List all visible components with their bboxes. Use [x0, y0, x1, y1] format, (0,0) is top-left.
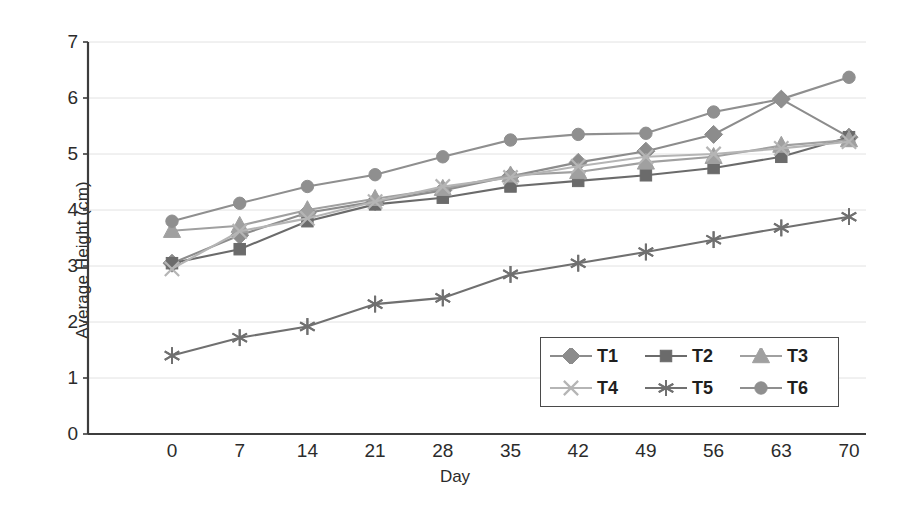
line-chart: Average Height (cm) 01234567 07142128354… [0, 0, 910, 520]
legend-label-t2: T2 [692, 347, 713, 365]
data-point-t2-49 [640, 170, 651, 181]
data-point-t6-49 [640, 127, 652, 139]
legend-label-t5: T5 [692, 379, 713, 397]
legend-item-t3[interactable]: T3 [739, 347, 834, 365]
data-point-t2-7 [234, 243, 245, 254]
legend-item-t2[interactable]: T2 [644, 347, 739, 365]
legend-item-t5[interactable]: T5 [644, 379, 739, 397]
legend-item-t6[interactable]: T6 [739, 379, 834, 397]
series-line-t6 [172, 77, 849, 221]
legend-marker-x-icon [549, 380, 593, 396]
series-t6 [166, 71, 855, 227]
legend-item-t1[interactable]: T1 [549, 347, 644, 365]
data-point-t1-56 [705, 125, 723, 143]
data-point-t6-70 [843, 71, 855, 83]
legend-label-t4: T4 [597, 379, 618, 397]
legend-marker-square-icon [644, 348, 688, 364]
legend-item-t4[interactable]: T4 [549, 379, 644, 397]
series-line-t4 [172, 142, 849, 269]
series-t4 [165, 135, 856, 276]
data-point-t6-21 [369, 169, 381, 181]
legend-marker-triangle-icon [739, 348, 783, 364]
legend-marker-diamond-icon [549, 348, 593, 364]
data-point-t6-35 [504, 134, 516, 146]
legend-marker-circle-icon [739, 380, 783, 396]
data-point-t6-63 [775, 93, 787, 105]
data-point-t6-0 [166, 215, 178, 227]
legend-label-t3: T3 [787, 347, 808, 365]
legend-label-t1: T1 [597, 347, 618, 365]
data-point-t6-42 [572, 128, 584, 140]
legend-marker [660, 350, 671, 361]
series-line-t5 [172, 217, 849, 356]
series-line-t2 [172, 137, 849, 263]
data-point-t5-0 [165, 347, 180, 364]
legend-label-t6: T6 [787, 379, 808, 397]
data-point-t6-7 [234, 197, 246, 209]
legend-marker [755, 382, 767, 394]
legend: T1T2T3T4T5T6 [540, 337, 839, 407]
data-point-t6-28 [437, 151, 449, 163]
plot-area [0, 0, 910, 520]
series-t2 [166, 131, 854, 268]
legend-marker-asterisk-icon [644, 380, 688, 396]
data-point-t6-14 [301, 180, 313, 192]
legend-marker [562, 348, 580, 364]
data-point-t6-56 [707, 106, 719, 118]
